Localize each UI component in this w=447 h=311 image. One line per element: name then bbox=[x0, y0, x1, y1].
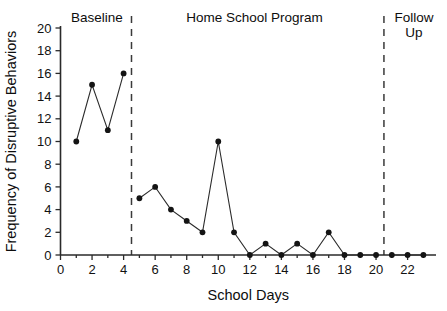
x-tick-label: 0 bbox=[57, 262, 64, 277]
data-point bbox=[121, 71, 127, 77]
x-tick-label: 4 bbox=[120, 262, 127, 277]
y-tick-label: 2 bbox=[44, 225, 51, 240]
data-point bbox=[215, 139, 221, 145]
data-point bbox=[89, 82, 95, 88]
y-tick-labels-group: 02468101214161820 bbox=[37, 21, 51, 263]
x-tick-label: 6 bbox=[152, 262, 159, 277]
data-series-line bbox=[139, 142, 376, 256]
y-tick-label: 4 bbox=[44, 202, 51, 217]
x-tick-label: 12 bbox=[243, 262, 257, 277]
data-point bbox=[263, 241, 269, 247]
data-series-line bbox=[76, 73, 123, 141]
phase-label: FollowUp bbox=[394, 10, 433, 40]
x-tick-labels-group: 0246810121416182022 bbox=[57, 262, 415, 277]
data-point bbox=[389, 252, 395, 258]
x-tick-label: 8 bbox=[183, 262, 190, 277]
data-point bbox=[294, 241, 300, 247]
data-point bbox=[373, 252, 379, 258]
phase-label: Baseline bbox=[71, 10, 123, 25]
data-point bbox=[405, 252, 411, 258]
y-tick-label: 6 bbox=[44, 180, 51, 195]
data-point bbox=[152, 184, 158, 190]
x-tick-label: 10 bbox=[211, 262, 225, 277]
y-tick-label: 0 bbox=[44, 248, 51, 263]
y-tick-label: 14 bbox=[37, 89, 51, 104]
x-tick-label: 18 bbox=[337, 262, 351, 277]
axes-group bbox=[56, 26, 437, 260]
data-point bbox=[184, 218, 190, 224]
y-tick-label: 8 bbox=[44, 157, 51, 172]
data-point bbox=[420, 252, 426, 258]
data-points-group bbox=[73, 71, 426, 258]
x-tick-label: 16 bbox=[306, 262, 320, 277]
data-point bbox=[105, 127, 111, 133]
data-point bbox=[73, 139, 79, 145]
y-tick-label: 20 bbox=[37, 21, 51, 36]
data-point bbox=[168, 207, 174, 213]
chart-canvas: BaselineHome School ProgramFollowUp 0246… bbox=[0, 0, 447, 311]
data-point bbox=[200, 229, 206, 235]
y-tick-label: 18 bbox=[37, 43, 51, 58]
y-tick-label: 16 bbox=[37, 66, 51, 81]
data-point bbox=[247, 252, 253, 258]
data-point bbox=[342, 252, 348, 258]
single-case-design-chart: BaselineHome School ProgramFollowUp 0246… bbox=[0, 0, 447, 311]
phase-labels-group: BaselineHome School ProgramFollowUp bbox=[71, 10, 434, 40]
x-tick-label: 22 bbox=[400, 262, 414, 277]
x-axis-title: School Days bbox=[208, 287, 289, 303]
data-point bbox=[326, 229, 332, 235]
phase-label: Home School Program bbox=[186, 10, 323, 25]
y-tick-label: 10 bbox=[37, 134, 51, 149]
data-lines-group bbox=[76, 73, 423, 255]
x-tick-label: 14 bbox=[274, 262, 288, 277]
x-tick-label: 20 bbox=[369, 262, 383, 277]
data-point bbox=[136, 195, 142, 201]
data-point bbox=[357, 252, 363, 258]
y-axis-title: Frequency of Disruptive Behaviors bbox=[3, 31, 19, 253]
x-tick-label: 2 bbox=[88, 262, 95, 277]
data-point bbox=[310, 252, 316, 258]
data-point bbox=[278, 252, 284, 258]
y-tick-label: 12 bbox=[37, 111, 51, 126]
phase-dividers-group bbox=[131, 16, 383, 255]
data-point bbox=[231, 229, 237, 235]
